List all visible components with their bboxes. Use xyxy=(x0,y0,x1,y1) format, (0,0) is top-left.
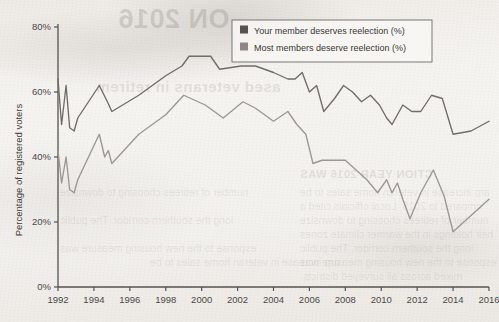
x-axis-tick-label: 1998 xyxy=(155,294,176,305)
x-axis-tick-label: 1994 xyxy=(83,294,104,305)
chart-series xyxy=(58,56,489,232)
y-axis-tick-label: 80% xyxy=(32,21,52,32)
x-axis-tick-label: 2004 xyxy=(263,294,284,305)
y-axis-title: Percentage of registered voters xyxy=(13,103,24,236)
y-axis-title-label: Percentage of registered voters xyxy=(13,103,24,236)
series-line-1 xyxy=(58,56,489,134)
legend-swatch xyxy=(240,43,248,51)
y-axis-tick-label: 40% xyxy=(32,151,52,162)
legend-swatch xyxy=(240,26,248,34)
legend-label: Your member deserves reelection (%) xyxy=(254,26,405,36)
scanned-page-background: ON 2016 ased veterans in retirem CTION Y… xyxy=(0,0,499,322)
chart-legend[interactable]: Your member deserves reelection (%)Most … xyxy=(232,20,432,62)
y-axis-tick-label: 0% xyxy=(37,281,51,292)
x-axis-tick-label: 2014 xyxy=(443,294,464,305)
x-axis-tick-label: 2002 xyxy=(227,294,248,305)
x-axis-tick-label: 2000 xyxy=(191,294,212,305)
x-axis-tick-label: 2010 xyxy=(371,294,392,305)
legend-label: Most members deserve reelection (%) xyxy=(254,43,406,53)
x-axis-tick-label: 2006 xyxy=(299,294,320,305)
x-axis-tick-label: 1996 xyxy=(119,294,140,305)
x-axis-tick-label: 1992 xyxy=(47,294,68,305)
x-axis-tick-label: 2008 xyxy=(335,294,356,305)
y-axis-tick-label: 20% xyxy=(32,216,52,227)
chart-axes: 0%20%40%60%80%19921994199619982000200220… xyxy=(32,21,499,305)
line-chart: 0%20%40%60%80%19921994199619982000200220… xyxy=(0,0,499,322)
series-line-2 xyxy=(58,95,489,232)
x-axis-tick-label: 2016 xyxy=(478,294,499,305)
x-axis-tick-label: 2012 xyxy=(407,294,428,305)
y-axis-tick-label: 60% xyxy=(32,86,52,97)
